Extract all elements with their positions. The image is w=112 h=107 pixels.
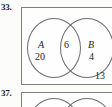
exercise-number-37: 37. xyxy=(1,88,12,98)
venn-count-b-only: 4 xyxy=(89,51,94,62)
venn-universe-rectangle-33: A 20 6 B 4 13 xyxy=(21,7,112,85)
venn-set-label-a: A xyxy=(38,39,44,50)
venn-diagram-33: A 20 6 B 4 13 xyxy=(22,8,112,86)
textbook-page-fragment: 33. A 20 6 B 4 13 37. xyxy=(0,0,112,107)
venn-count-intersection: 6 xyxy=(64,39,69,50)
venn-set-label-b: B xyxy=(88,39,94,50)
venn-count-outside: 13 xyxy=(95,70,105,81)
venn-count-a-only: 20 xyxy=(35,51,45,62)
venn-universe-rectangle-37 xyxy=(21,92,112,107)
exercise-number-33: 33. xyxy=(1,2,12,12)
